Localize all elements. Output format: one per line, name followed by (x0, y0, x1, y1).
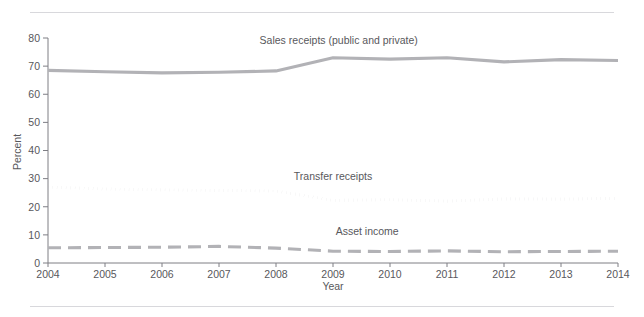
x-tick-label: 2014 (606, 268, 630, 280)
x-tick-label: 2006 (150, 268, 174, 280)
y-tick-label: 50 (28, 116, 40, 128)
x-tick-label: 2011 (436, 268, 459, 280)
line-chart-plot: 01020304050607080 2004200520062007200820… (0, 0, 644, 317)
x-tick-label: 2005 (93, 268, 117, 280)
x-tick-label: 2008 (264, 268, 288, 280)
y-axis-tick-labels: 01020304050607080 (28, 32, 40, 269)
x-tick-label: 2009 (321, 268, 345, 280)
series-line (48, 246, 618, 251)
x-tick-label: 2004 (36, 268, 60, 280)
x-tick-label: 2012 (492, 268, 516, 280)
y-tick-label: 40 (28, 144, 40, 156)
series-line (48, 187, 618, 201)
x-tick-label: 2013 (549, 268, 573, 280)
y-tick-label: 0 (34, 257, 40, 269)
x-axis-title: Year (322, 280, 344, 292)
series-line (48, 58, 618, 73)
y-axis-title: Percent (11, 134, 23, 170)
series-label: Asset income (336, 225, 399, 237)
y-tick-label: 80 (28, 32, 40, 44)
x-axis-tick-marks (48, 263, 618, 267)
y-tick-label: 10 (28, 229, 40, 241)
data-series-group (48, 58, 618, 252)
series-annotation-labels: Sales receipts (public and private)Trans… (260, 34, 418, 237)
x-tick-label: 2010 (378, 268, 402, 280)
y-tick-label: 60 (28, 88, 40, 100)
x-tick-label: 2007 (207, 268, 231, 280)
y-axis-tick-marks (43, 38, 48, 263)
y-tick-label: 20 (28, 201, 40, 213)
chart-figure: 01020304050607080 2004200520062007200820… (0, 0, 644, 317)
y-tick-label: 70 (28, 60, 40, 72)
x-axis-tick-labels: 2004200520062007200820092010201120122013… (36, 268, 630, 280)
y-tick-label: 30 (28, 172, 40, 184)
series-label: Sales receipts (public and private) (260, 34, 418, 46)
series-label: Transfer receipts (294, 170, 372, 182)
